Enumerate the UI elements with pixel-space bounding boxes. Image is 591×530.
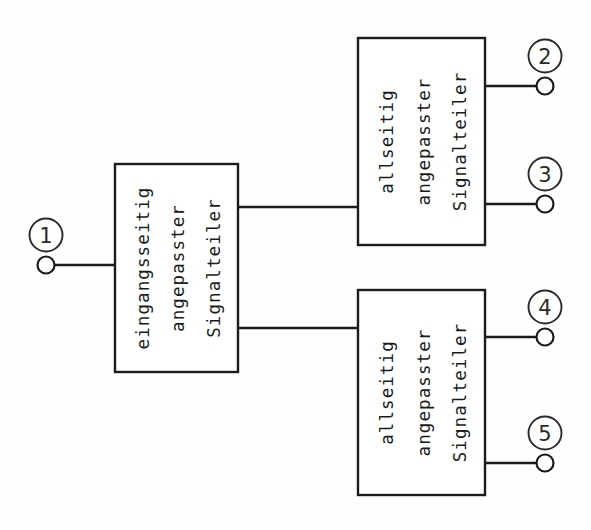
block-upper-divider-line-3: Signalteiler	[450, 72, 470, 212]
block-lower-divider-line-3: Signalteiler	[450, 323, 470, 463]
port-4-number: 4	[538, 296, 551, 320]
port-5-number: 5	[538, 422, 551, 446]
block-lower-divider-line-2: angepasster	[414, 329, 434, 457]
block-lower-divider-line-1: allseitig	[377, 340, 397, 445]
port-5[interactable]: 5	[485, 417, 562, 472]
port-3[interactable]: 3	[485, 158, 562, 213]
diagram-canvas: eingangsseitig angepasster Signalteiler …	[0, 0, 591, 530]
block-input-divider-line-1: eingangsseitig	[133, 187, 153, 350]
port-4[interactable]: 4	[485, 291, 562, 346]
port-3-terminal[interactable]	[537, 196, 554, 213]
port-2-terminal[interactable]	[537, 78, 554, 95]
port-4-terminal[interactable]	[537, 329, 554, 346]
port-1[interactable]: 1	[30, 219, 116, 274]
block-input-divider[interactable]: eingangsseitig angepasster Signalteiler	[115, 164, 238, 372]
block-upper-divider-line-1: allseitig	[377, 89, 397, 194]
port-1-number: 1	[39, 224, 52, 248]
port-1-terminal[interactable]	[38, 257, 55, 274]
block-upper-divider-line-2: angepasster	[414, 78, 434, 206]
port-2[interactable]: 2	[485, 40, 562, 95]
port-5-terminal[interactable]	[537, 455, 554, 472]
block-input-divider-line-3: Signalteiler	[204, 198, 224, 338]
port-3-number: 3	[538, 163, 551, 187]
port-2-number: 2	[538, 45, 551, 69]
block-upper-divider[interactable]: allseitig angepasster Signalteiler	[358, 38, 485, 245]
block-input-divider-line-2: angepasster	[168, 204, 188, 332]
block-lower-divider[interactable]: allseitig angepasster Signalteiler	[358, 290, 485, 495]
signal-divider-diagram: eingangsseitig angepasster Signalteiler …	[0, 0, 591, 530]
